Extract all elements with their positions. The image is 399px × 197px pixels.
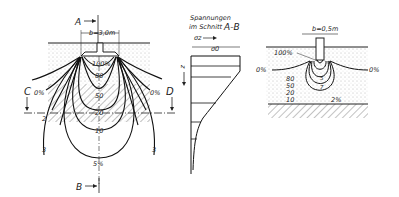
svg-text:0%: 0% [256,66,266,74]
section-label-b: B [76,182,82,192]
svg-text:0%: 0% [150,89,160,97]
svg-text:im Schnitt: im Schnitt [189,23,222,31]
svg-text:σ0: σ0 [211,45,219,53]
profile-title: Spannungen [190,14,231,22]
svg-text:2%: 2% [331,96,341,104]
svg-text:2: 2 [42,115,46,123]
svg-text:5%: 5% [93,160,103,168]
marker-c: C [24,86,31,97]
footing [316,38,324,60]
svg-text:50: 50 [95,92,103,100]
svg-text:3: 3 [42,146,46,154]
stress-profile: Spannungen im Schnitt A-B σz σ0 z [179,14,240,174]
svg-text:3: 3 [152,146,156,154]
svg-text:σz: σz [194,34,202,42]
stress-distribution-diagram: b=3,0m A 100% 80 50 20 [0,0,399,197]
svg-text:100%: 100% [92,60,111,68]
svg-text:A-B: A-B [223,22,240,32]
clay-layer [268,104,368,118]
svg-text:z: z [179,64,187,69]
svg-text:10: 10 [95,127,103,135]
svg-text:7: 7 [320,84,324,90]
svg-text:5: 5 [320,75,324,81]
svg-text:80: 80 [95,72,103,80]
marker-d: D [166,86,174,97]
width-label: b=3,0m [89,29,115,37]
svg-text:100%: 100% [274,49,293,57]
svg-text:0%: 0% [34,89,44,97]
svg-text:10: 10 [286,96,294,104]
left-figure: b=3,0m A 100% 80 50 20 [24,15,176,193]
right-figure: b=0,5m 100% 0% 0% 80 50 20 10 5 7 2% [256,25,379,118]
section-label-a: A [74,17,81,27]
svg-text:0%: 0% [369,66,379,74]
width-label: b=0,5m [312,25,338,33]
